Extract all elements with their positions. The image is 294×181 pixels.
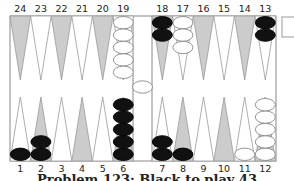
backgammon-board: 242322212019181716151413123456789101112 <box>0 0 294 181</box>
point-label: 24 <box>14 3 26 14</box>
black-checker[interactable] <box>113 123 133 135</box>
point-label: 18 <box>156 3 168 14</box>
white-checker[interactable] <box>173 41 193 53</box>
black-checker[interactable] <box>10 148 30 160</box>
point-label: 23 <box>35 3 47 14</box>
white-checker[interactable] <box>113 17 133 29</box>
point-label: 22 <box>55 3 67 14</box>
white-checker[interactable] <box>255 136 275 148</box>
point-label: 19 <box>117 3 129 14</box>
black-checker[interactable] <box>152 136 172 148</box>
white-checker[interactable] <box>113 41 133 53</box>
white-checker[interactable] <box>255 123 275 135</box>
black-checker[interactable] <box>113 148 133 160</box>
white-checker[interactable] <box>255 111 275 123</box>
white-checker[interactable] <box>173 17 193 29</box>
white-checker[interactable] <box>255 148 275 160</box>
white-checker[interactable] <box>113 29 133 41</box>
black-checker[interactable] <box>113 111 133 123</box>
black-checker[interactable] <box>31 148 51 160</box>
black-checker[interactable] <box>152 29 172 41</box>
position-caption: Problem 123: Black to play 43 <box>0 172 294 181</box>
black-checker[interactable] <box>152 148 172 160</box>
point-label: 15 <box>218 3 230 14</box>
white-checker[interactable] <box>113 54 133 66</box>
point-label: 14 <box>239 3 251 14</box>
point-label: 21 <box>76 3 88 14</box>
black-checker[interactable] <box>152 17 172 29</box>
point-label: 13 <box>259 3 271 14</box>
white-checker[interactable] <box>173 29 193 41</box>
black-checker[interactable] <box>113 99 133 111</box>
white-checker[interactable] <box>235 148 255 160</box>
white-checker[interactable] <box>255 99 275 111</box>
white-bar-checker[interactable] <box>133 81 153 93</box>
point-label: 16 <box>197 3 209 14</box>
black-checker[interactable] <box>31 136 51 148</box>
black-checker[interactable] <box>255 17 275 29</box>
point-label: 20 <box>97 3 109 14</box>
white-checker[interactable] <box>113 66 133 78</box>
black-checker[interactable] <box>173 148 193 160</box>
doubling-cube[interactable] <box>282 17 294 37</box>
black-checker[interactable] <box>113 136 133 148</box>
black-checker[interactable] <box>255 29 275 41</box>
point-label: 17 <box>177 3 189 14</box>
